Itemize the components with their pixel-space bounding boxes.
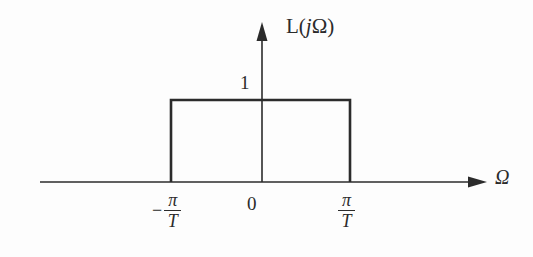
y-axis-label: L(jΩ): [286, 16, 334, 37]
plot-canvas: [0, 0, 533, 257]
figure-container: L(jΩ) 1 0 Ω − π T π T: [0, 0, 533, 257]
minus-sign: −: [152, 200, 164, 221]
fraction-positive: π T: [338, 191, 355, 230]
y-axis-label-prefix: L(: [286, 14, 306, 38]
fraction-numerator: π: [339, 191, 354, 210]
fraction-denominator: T: [165, 211, 181, 230]
origin-label: 0: [247, 194, 257, 213]
y-axis-arrowhead: [257, 22, 268, 41]
y-axis-label-suffix: ): [327, 14, 334, 38]
fraction-numerator: π: [165, 191, 180, 210]
x-axis-arrowhead: [468, 177, 487, 188]
fraction-denominator: T: [338, 211, 354, 230]
tick-label-positive-cutoff: π T: [338, 191, 355, 230]
rectangular-pulse-trace: [171, 100, 350, 182]
y-axis-label-omega: Ω: [312, 14, 328, 38]
x-axis-label: Ω: [495, 167, 509, 187]
amplitude-tick-label: 1: [240, 73, 250, 92]
tick-label-negative-cutoff: − π T: [152, 191, 181, 230]
fraction-negative: π T: [164, 191, 181, 230]
